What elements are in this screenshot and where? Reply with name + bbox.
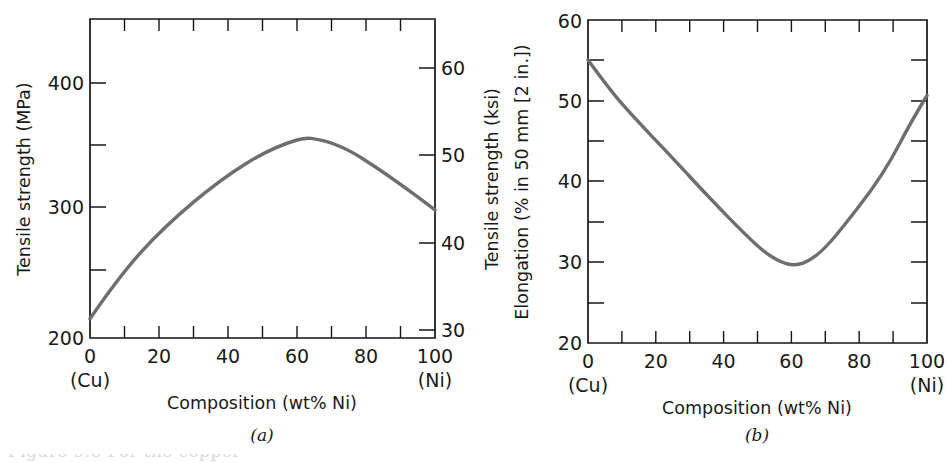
bottom-axis-ticks-b [622,331,893,343]
left-axis-ticks-a [90,83,106,270]
x-axis-label-a-60: 60 [285,345,309,367]
x-axis-label-b-80: 80 [847,350,871,372]
left-axis-ticks-b [588,60,604,303]
y-axis-label-b-60: 60 [558,10,582,32]
plot-frame-a [90,19,435,338]
y2-axis-label-a-60: 60 [441,57,465,79]
top-axis-ticks-b [622,20,893,32]
y2-axis-title-a: Tensile strength (ksi) [482,88,502,271]
x-axis-label-a-80: 80 [354,345,378,367]
panel-a: 200 300 400 30 40 50 60 0 20 40 60 80 10… [14,19,502,445]
y2-axis-label-a-30: 30 [441,319,465,341]
y-axis-label-a-300: 300 [48,196,84,218]
x-axis-label-b-0: 0 [582,350,594,372]
figure-container: 200 300 400 30 40 50 60 0 20 40 60 80 10… [0,0,949,463]
x-axis-label-b-20: 20 [644,350,668,372]
x-axis-endpoint-b-ni: (Ni) [910,374,944,396]
y-axis-label-b-40: 40 [558,170,582,192]
tensile-strength-curve [90,138,435,319]
x-axis-endpoint-b-cu: (Cu) [568,374,608,396]
x-axis-endpoint-a-ni: (Ni) [418,369,452,391]
y-axis-label-b-50: 50 [558,90,582,112]
x-axis-label-b-100: 100 [909,350,945,372]
x-axis-label-a-40: 40 [216,345,240,367]
y-axis-title-b: Elongation (% in 50 mm [2 in.]) [512,44,532,319]
y-axis-title-a: Tensile strength (MPa) [14,82,34,276]
x-axis-label-b-40: 40 [712,350,736,372]
panel-b: 20 30 40 50 60 0 20 40 60 80 100 (Cu) (N… [512,10,945,445]
panel-caption-b: (b) [745,425,769,445]
elongation-curve [588,60,927,265]
x-axis-title-a: Composition (wt% Ni) [167,393,357,413]
y-axis-label-b-20: 20 [558,332,582,354]
cut-off-caption-text: Figure 9.6 For the copper [8,454,241,461]
y2-axis-label-a-40: 40 [441,232,465,254]
y-axis-label-a-200: 200 [48,327,84,349]
x-axis-label-a-0: 0 [84,345,96,367]
cut-off-caption-strip: Figure 9.6 For the copper [0,454,949,463]
x-axis-label-a-20: 20 [147,345,171,367]
y2-axis-label-a-50: 50 [441,144,465,166]
x-axis-title-b: Composition (wt% Ni) [662,398,852,418]
x-axis-label-a-100: 100 [417,345,453,367]
x-axis-label-b-60: 60 [779,350,803,372]
top-axis-ticks-a [125,19,401,31]
panel-caption-a: (a) [250,425,273,445]
bottom-axis-ticks-a [125,326,401,338]
y-axis-label-a-400: 400 [48,72,84,94]
figure-svg: 200 300 400 30 40 50 60 0 20 40 60 80 10… [0,0,949,463]
x-axis-endpoint-a-cu: (Cu) [70,369,110,391]
y-axis-label-b-30: 30 [558,251,582,273]
